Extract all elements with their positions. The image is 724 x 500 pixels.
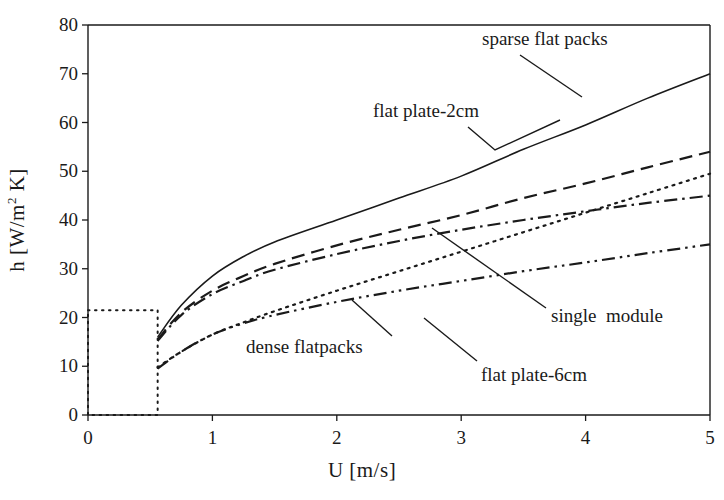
leader-line-flat-plate-6cm <box>424 318 477 361</box>
leader-line-sparse-flat-packs <box>520 55 582 97</box>
y-tick-label: 70 <box>34 63 78 85</box>
y-axis-title: h [W/m2 K] <box>4 168 30 272</box>
y-tick-label: 0 <box>34 404 78 426</box>
annotation-single-module: single module <box>551 305 663 327</box>
inset-dotted-rect <box>88 310 158 415</box>
x-tick-label: 5 <box>705 427 715 449</box>
y-tick-label: 40 <box>34 209 78 231</box>
x-tick-label: 0 <box>83 427 93 449</box>
y-tick-label: 10 <box>34 355 78 377</box>
chart-canvas <box>0 0 724 500</box>
annotation-flat-plate-2cm: flat plate-2cm <box>373 100 479 122</box>
axis-ticks <box>82 25 710 421</box>
y-tick-label: 30 <box>34 258 78 280</box>
y-tick-label: 80 <box>34 14 78 36</box>
inset-dotted-box <box>88 310 158 415</box>
series-line-dense-flatpacks <box>158 174 710 368</box>
x-tick-label: 3 <box>456 427 466 449</box>
leader-line-single-module <box>432 228 546 308</box>
y-tick-label: 20 <box>34 307 78 329</box>
x-tick-label: 2 <box>332 427 342 449</box>
chart-figure: 01020304050607080 012345 U [m/s] h [W/m2… <box>0 0 724 500</box>
y-tick-label: 50 <box>34 160 78 182</box>
x-tick-label: 4 <box>581 427 591 449</box>
annotation-sparse-flat-packs: sparse flat packs <box>482 28 608 50</box>
x-tick-label: 1 <box>208 427 218 449</box>
y-tick-label: 60 <box>34 112 78 134</box>
x-axis-title: U [m/s] <box>328 458 396 483</box>
plot-frame <box>88 25 710 415</box>
annotation-dense-flatpacks: dense flatpacks <box>246 336 363 358</box>
annotation-flat-plate-6cm: flat plate-6cm <box>481 364 587 386</box>
leader-line-dense-flatpacks <box>352 300 392 336</box>
leader-line-flat-plate-2cm <box>468 120 560 150</box>
